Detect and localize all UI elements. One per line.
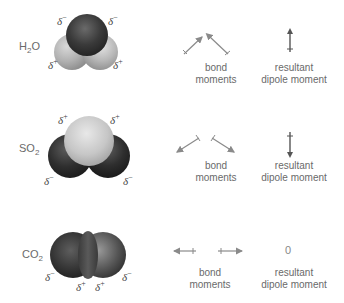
partial-charge-label: δ− [44,174,54,187]
sulfur-atom [64,116,114,166]
resultant-dipole-caption: resultant dipole moment [254,160,334,184]
bond-moment-arrows [172,245,252,257]
formula-text: SO [19,142,35,154]
resultant-dipole-arrow [284,28,296,54]
formula-text: CO [22,248,39,260]
formula-subscript: 2 [39,254,43,263]
partial-charge-label: δ+ [58,113,68,126]
formula-subscript: 2 [35,148,39,157]
partial-charge-label: δ+ [76,280,86,293]
oxygen-atom [66,14,108,56]
partial-charge-label: δ− [57,14,67,27]
resultant-dipole-caption: resultant dipole moment [254,267,334,291]
bond-moments-caption: bond moments [186,160,246,184]
resultant-dipole-value: 0 [285,244,291,256]
formula-text-end: O [31,40,40,52]
resultant-dipole-arrow [284,132,296,158]
h2o-formula: H2O [19,40,40,55]
bond-moments-caption: bond moments [180,267,240,291]
h2o-row: H2O δ− δ− δ+ δ+ bond moments [0,0,344,100]
partial-charge-label: δ− [122,270,132,283]
so2-row: SO2 δ+ δ+ δ− δ− bond moments resultant d… [0,100,344,200]
partial-charge-label: δ+ [48,58,58,71]
co2-formula: CO2 [22,248,43,263]
formula-text: H [19,40,27,52]
co2-row: CO2 δ− δ− δ+ δ+ bond moments 0 resultant… [0,200,344,300]
bond-moment-arrows [180,28,260,58]
bond-moment-arrows [174,134,264,158]
partial-charge-label: δ+ [110,113,120,126]
partial-charge-label: δ− [108,14,118,27]
partial-charge-label: δ+ [95,280,105,293]
carbon-atom [78,231,98,279]
bond-moments-caption: bond moments [186,62,246,86]
partial-charge-label: δ+ [113,58,123,71]
so2-formula: SO2 [19,142,39,157]
partial-charge-label: δ− [123,174,133,187]
resultant-dipole-caption: resultant dipole moment [254,62,334,86]
partial-charge-label: δ− [45,270,55,283]
